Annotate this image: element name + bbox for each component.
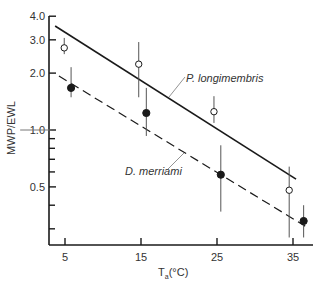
x-ticks: 5152535 <box>62 238 299 263</box>
y-ticks: 4.03.02.01.00.5 <box>30 10 56 229</box>
x-tick-label: 35 <box>287 251 299 263</box>
open-circle-marker <box>136 61 142 67</box>
d-merriami-point <box>143 88 150 136</box>
y-tick-label: 4.0 <box>30 10 45 22</box>
filled-circle-marker <box>300 217 307 224</box>
d-merriami-point <box>300 205 307 237</box>
p-longimembris-label: P. longimembris <box>186 72 264 84</box>
open-circle-marker <box>286 187 292 193</box>
p-longimembris-fit-line <box>55 26 296 179</box>
x-axis-title: Ta(°C) <box>158 266 188 280</box>
x-tick-label: 15 <box>135 251 147 263</box>
filled-circle-marker <box>217 171 224 178</box>
open-circle-marker <box>211 108 217 114</box>
filled-circle-marker <box>143 109 150 116</box>
x-tick-label: 25 <box>211 251 223 263</box>
y-axis-title: MWP/EWL <box>5 101 17 155</box>
axes: 4.03.02.01.00.5 5152535 <box>30 10 313 263</box>
x-axis-title-unit: (°C) <box>169 266 189 278</box>
filled-circle-marker <box>67 84 74 91</box>
x-tick-label: 5 <box>62 251 68 263</box>
p-longimembris-point <box>136 42 142 97</box>
fit-lines <box>55 26 305 226</box>
d-merriami-fit-line <box>59 76 305 226</box>
d-merriami-label: D. merriami <box>125 165 182 177</box>
d-merriami-point <box>67 67 74 97</box>
y-tick-label: 3.0 <box>30 34 45 46</box>
p-longimembris-point <box>286 167 292 238</box>
chart: 4.03.02.01.00.5 5152535 P. longimembris … <box>0 0 326 295</box>
p-longimembris-leader-line <box>169 77 185 97</box>
d-merriami-point <box>217 145 224 211</box>
y-tick-label: 0.5 <box>30 181 45 193</box>
data-points <box>61 38 307 238</box>
y-tick-label: 2.0 <box>30 67 45 79</box>
open-circle-marker <box>61 45 67 51</box>
p-longimembris-point <box>61 38 67 54</box>
p-longimembris-point <box>211 96 217 123</box>
